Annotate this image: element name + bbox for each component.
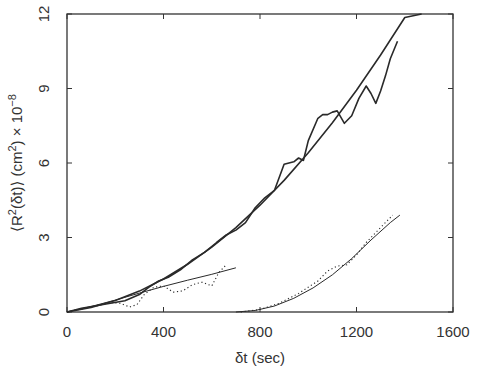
x-tick-label: 1600 (436, 323, 469, 340)
plot-border (67, 14, 453, 312)
x-tick-label: 400 (151, 323, 176, 340)
y-tick-label: 0 (35, 308, 52, 316)
x-tick-label: 800 (247, 323, 272, 340)
x-tick-label: 0 (63, 323, 71, 340)
y-tick-label: 6 (35, 159, 52, 167)
x-tick-labels: 040080012001600 (63, 323, 470, 340)
x-axis-title: δt (sec) (235, 349, 285, 366)
x-tick-label: 1200 (340, 323, 373, 340)
series-0 (67, 41, 398, 312)
series-1 (67, 14, 422, 312)
data-series (67, 14, 422, 312)
y-tick-label: 12 (35, 6, 52, 23)
series-4 (241, 215, 393, 312)
y-axis-title: ⟨R2(δt)⟩ (cm2) × 10−8 (6, 94, 25, 232)
y-tick-label: 3 (35, 233, 52, 241)
series-5 (236, 215, 400, 312)
axis-ticks (67, 14, 453, 312)
y-tick-label: 9 (35, 84, 52, 92)
chart: 040080012001600 036912 δt (sec) ⟨R2(δt)⟩… (0, 0, 478, 387)
series-3 (67, 268, 236, 312)
plot-frame (67, 14, 453, 312)
y-tick-labels: 036912 (35, 6, 52, 317)
